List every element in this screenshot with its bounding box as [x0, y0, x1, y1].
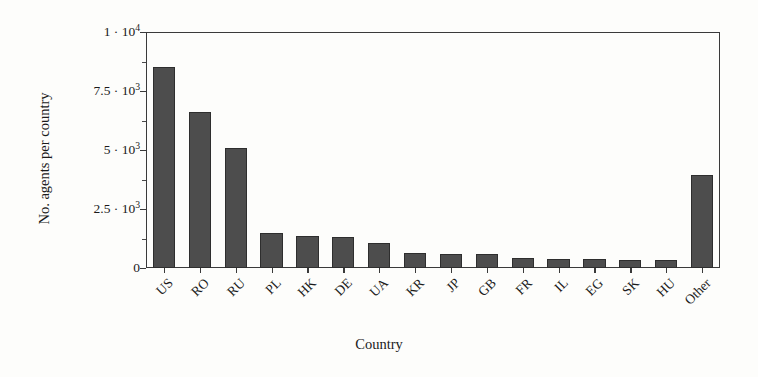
y-axis-tick: [140, 209, 146, 210]
bar-fr: [512, 258, 534, 268]
y-axis-minor-tick: [142, 239, 146, 240]
bar-il: [547, 259, 569, 268]
bar-gb: [476, 254, 498, 268]
y-axis-tick: [140, 150, 146, 151]
bar-sk: [619, 260, 641, 268]
x-axis-tick: [272, 268, 273, 273]
x-axis-tick: [487, 268, 488, 273]
y-axis-minor-tick: [142, 121, 146, 122]
y-axis-tick: [140, 32, 146, 33]
bar-ua: [368, 243, 390, 268]
bar-hu: [655, 260, 677, 268]
y-axis-label: 1 · 104: [8, 25, 140, 39]
y-axis-label: 2.5 · 103: [8, 202, 140, 216]
y-axis-tick-labels: 02.5 · 1035 · 1037.5 · 1031 · 104: [0, 0, 140, 377]
y-axis-tick: [140, 268, 146, 269]
bar-kr: [404, 253, 426, 268]
x-axis-tick: [559, 268, 560, 273]
x-axis-tick: [630, 268, 631, 273]
bar-chart-figure: 02.5 · 1035 · 1037.5 · 1031 · 104 No. ag…: [0, 0, 758, 377]
x-axis-tick: [236, 268, 237, 273]
bar-ro: [189, 112, 211, 268]
y-axis-label: 7.5 · 103: [8, 84, 140, 98]
bar-us: [153, 67, 175, 268]
x-axis-title: Country: [0, 336, 758, 353]
y-axis-label: 5 · 103: [8, 143, 140, 157]
y-axis-minor-tick: [142, 180, 146, 181]
x-axis-tick: [200, 268, 201, 273]
x-axis-tick: [594, 268, 595, 273]
bars-layer: [146, 32, 720, 268]
x-axis-tick: [307, 268, 308, 273]
y-axis-title: No. agents per country: [36, 49, 53, 269]
x-axis-tick: [415, 268, 416, 273]
x-axis-tick: [666, 268, 667, 273]
bar-pl: [260, 233, 282, 268]
y-axis-tick: [140, 91, 146, 92]
x-axis-tick: [379, 268, 380, 273]
y-axis-label: 0: [8, 261, 140, 275]
y-axis-minor-tick: [142, 62, 146, 63]
x-axis-tick: [343, 268, 344, 273]
x-axis-tick: [451, 268, 452, 273]
bar-ru: [225, 148, 247, 268]
bar-eg: [583, 259, 605, 268]
bar-jp: [440, 254, 462, 268]
bar-de: [332, 237, 354, 268]
bar-other: [691, 175, 713, 268]
x-axis-tick: [702, 268, 703, 273]
x-axis-tick: [164, 268, 165, 273]
x-axis-tick: [523, 268, 524, 273]
bar-hk: [296, 236, 318, 268]
